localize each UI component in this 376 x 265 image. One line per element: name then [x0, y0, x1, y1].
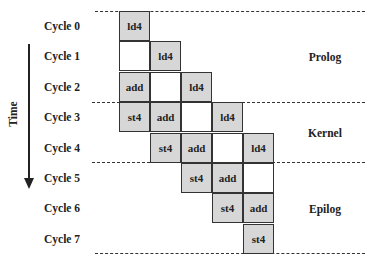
instruction-cell-st4: st4 [150, 133, 181, 163]
cycle-label: Cycle 1 [44, 49, 114, 63]
empty-cell [212, 133, 243, 163]
cycle-label: Cycle 6 [44, 201, 114, 215]
instruction-cell-add: add [119, 72, 150, 102]
time-axis-label: Time [7, 99, 19, 129]
instruction-cell-ld4: ld4 [181, 72, 212, 102]
instruction-cell-st4: st4 [119, 102, 150, 132]
instruction-cell-ld4: ld4 [150, 41, 181, 71]
phase-label-kernel: Kernel [300, 126, 350, 140]
time-arrow-line [28, 44, 30, 180]
instruction-cell-ld4: ld4 [212, 102, 243, 132]
instruction-cell-add: add [243, 193, 274, 223]
cycle-label: Cycle 5 [44, 171, 114, 185]
empty-cell [150, 72, 181, 102]
instruction-cell-st4: st4 [212, 193, 243, 223]
cycle-label: Cycle 3 [44, 110, 114, 124]
instruction-cell-add: add [181, 133, 212, 163]
instruction-cell-add: add [212, 163, 243, 193]
arrow-down-icon [24, 178, 34, 189]
empty-cell [243, 163, 274, 193]
instruction-cell-ld4: ld4 [243, 133, 274, 163]
instruction-cell-add: add [150, 102, 181, 132]
cycle-label: Cycle 4 [44, 141, 114, 155]
instruction-cell-st4: st4 [243, 224, 274, 254]
cycle-label: Cycle 0 [44, 19, 114, 33]
empty-cell [181, 102, 212, 132]
cycle-label: Cycle 7 [44, 232, 114, 246]
empty-cell [119, 41, 150, 71]
phase-label-epilog: Epilog [300, 202, 350, 216]
divider-bottom [95, 253, 365, 254]
instruction-cell-ld4: ld4 [119, 11, 150, 41]
instruction-cell-st4: st4 [181, 163, 212, 193]
software-pipeline-diagram: Time Cycle 0Cycle 1Cycle 2Cycle 3Cycle 4… [0, 0, 376, 265]
phase-label-prolog: Prolog [300, 50, 350, 64]
cycle-label: Cycle 2 [44, 80, 114, 94]
